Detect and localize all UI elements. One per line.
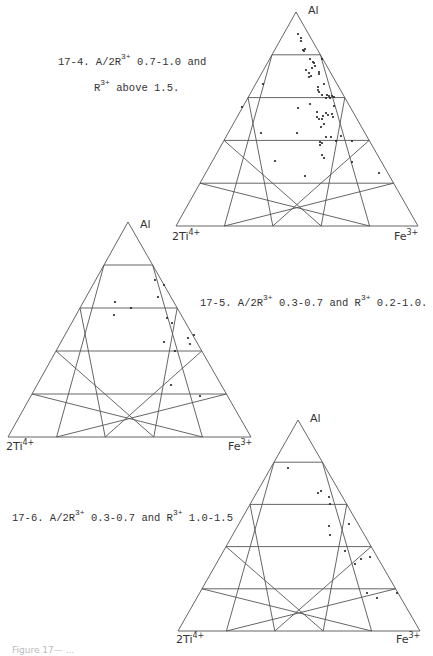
data-point: [333, 96, 335, 98]
data-point: [321, 118, 323, 120]
data-point: [170, 384, 172, 386]
data-point: [321, 58, 323, 60]
data-point: [157, 296, 159, 298]
data-point: [308, 72, 310, 74]
data-point: [199, 395, 201, 397]
data-point: [300, 37, 302, 39]
data-point: [319, 144, 321, 146]
data-point: [325, 112, 327, 114]
data-point: [318, 71, 320, 73]
data-point: [351, 140, 353, 142]
data-point: [320, 126, 322, 128]
data-point: [325, 136, 327, 138]
vertex-label-al: Al: [310, 412, 321, 425]
data-point: [171, 322, 173, 324]
data-point: [114, 301, 116, 303]
data-point: [130, 307, 132, 309]
data-point: [344, 550, 346, 552]
data-point: [318, 73, 320, 75]
data-point: [331, 95, 333, 97]
data-point: [163, 341, 165, 343]
data-point: [323, 123, 325, 125]
data-point: [316, 116, 318, 118]
data-point: [317, 86, 319, 88]
data-point: [163, 284, 165, 286]
data-point: [260, 132, 262, 134]
data-point: [340, 135, 342, 137]
data-point: [351, 161, 353, 163]
data-point: [322, 115, 324, 117]
data-point: [329, 503, 331, 505]
data-point: [113, 314, 115, 316]
caption-17-6: 17-6. A/2R3+ 0.3-0.7 and R3+ 1.0-1.5: [12, 512, 233, 524]
data-point: [317, 492, 319, 494]
caption-17-4-line2: R3+ above 1.5.: [94, 82, 179, 94]
vertex-label-al: Al: [140, 218, 151, 231]
data-point: [360, 558, 362, 560]
data-point: [309, 103, 311, 105]
data-point: [326, 94, 328, 96]
data-point: [305, 69, 307, 71]
data-point: [329, 97, 331, 99]
data-point: [304, 175, 306, 177]
data-point: [333, 105, 335, 107]
caption-17-4: 17-4. A/2R3+ 0.7-1.0 and: [58, 56, 206, 68]
data-point: [348, 523, 350, 525]
data-point: [189, 343, 191, 345]
data-point: [241, 106, 243, 108]
data-point: [304, 48, 306, 50]
data-point: [300, 40, 302, 42]
data-point: [297, 33, 299, 35]
data-point: [166, 317, 168, 319]
data-point: [327, 114, 329, 116]
data-point: [318, 118, 320, 120]
data-point: [318, 91, 320, 93]
data-point: [154, 279, 156, 281]
data-point: [303, 50, 305, 52]
figure-footer: Figure 17— ...: [12, 645, 74, 655]
vertex-label-ti: 2Ti4+: [176, 633, 204, 646]
data-point: [311, 67, 313, 69]
data-point: [321, 142, 323, 144]
data-point: [328, 496, 330, 498]
data-point: [314, 65, 316, 67]
data-point: [319, 141, 321, 143]
data-point: [331, 113, 333, 115]
data-point: [396, 592, 398, 594]
data-point: [335, 140, 337, 142]
data-point: [313, 62, 315, 64]
data-point: [329, 534, 331, 536]
vertex-label-fe: Fe3+: [228, 440, 252, 453]
data-point: [316, 111, 318, 113]
ternary-diagrams: [0, 0, 433, 656]
data-point: [320, 490, 322, 492]
data-point: [274, 160, 276, 162]
data-point: [187, 337, 189, 339]
vertex-label-ti: 2Ti4+: [172, 230, 200, 243]
vertex-label-fe: Fe3+: [396, 633, 420, 646]
data-point: [328, 525, 330, 527]
data-point: [296, 132, 298, 134]
data-point: [325, 97, 327, 99]
data-point: [297, 107, 299, 109]
data-point: [174, 350, 176, 352]
data-point: [308, 76, 310, 78]
vertex-label-ti: 2Ti4+: [6, 440, 34, 453]
data-point: [369, 556, 371, 558]
data-point: [193, 334, 195, 336]
data-point: [323, 157, 325, 159]
ternary-diagram-17-6: [178, 420, 420, 631]
vertex-label-al: Al: [308, 4, 319, 17]
data-point: [378, 172, 380, 174]
data-point: [354, 563, 356, 565]
data-point: [317, 89, 319, 91]
caption-17-5: 17-5. A/2R3+ 0.3-0.7 and R3+ 0.2-1.0.: [200, 297, 427, 309]
data-point: [366, 592, 368, 594]
ternary-diagram-17-4: [176, 12, 418, 226]
vertex-label-fe: Fe3+: [394, 230, 418, 243]
data-point: [321, 94, 323, 96]
data-point: [310, 75, 312, 77]
data-point: [332, 116, 334, 118]
data-point: [323, 83, 325, 85]
ternary-diagram-17-5: [8, 222, 251, 437]
